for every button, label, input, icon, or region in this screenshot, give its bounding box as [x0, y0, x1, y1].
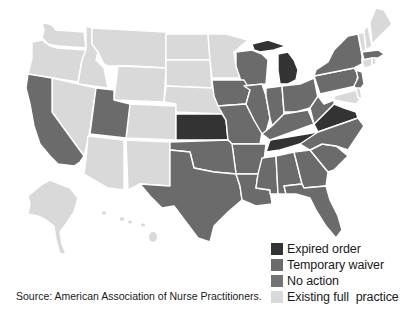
state-hi [102, 211, 157, 242]
legend-label: No action [287, 274, 339, 288]
state-nm [126, 140, 170, 190]
state-md [334, 90, 360, 104]
swatch-temporary-waiver [271, 259, 283, 271]
legend-item-existing-full-practice: Existing full practice [271, 289, 399, 305]
state-wy [114, 66, 166, 102]
state-ia [212, 80, 250, 106]
state-az [84, 136, 124, 190]
state-co [126, 104, 176, 140]
state-ri [372, 58, 376, 65]
swatch-expired-order [271, 243, 283, 255]
legend-item-expired-order: Expired order [271, 241, 399, 257]
state-me [370, 8, 392, 44]
swatch-existing-full-practice [271, 291, 283, 303]
legend: Expired order Temporary waiver No action… [271, 241, 399, 305]
state-mt [92, 28, 166, 68]
state-ks [176, 114, 228, 140]
state-sd [166, 60, 212, 88]
state-nd [166, 34, 210, 60]
source-note: Source: American Association of Nurse Pr… [16, 290, 262, 302]
state-fl [284, 184, 342, 238]
state-ct [362, 58, 372, 68]
legend-label: Existing full practice [287, 290, 399, 304]
legend-label: Temporary waiver [287, 258, 384, 272]
swatch-no-action [271, 275, 283, 287]
state-ak [28, 180, 78, 254]
legend-label: Expired order [287, 242, 361, 256]
legend-item-no-action: No action [271, 273, 399, 289]
legend-item-temporary-waiver: Temporary waiver [271, 257, 399, 273]
